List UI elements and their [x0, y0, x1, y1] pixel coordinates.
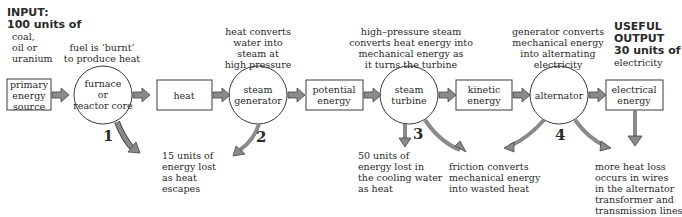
flow-arrow-icon — [589, 88, 606, 102]
flow-arrow-icon — [52, 88, 69, 102]
node-steam-turbine: steamturbine — [391, 84, 426, 106]
flow-arrow-icon — [288, 88, 305, 102]
friction-loss-text: friction convertsmechanical energy into … — [449, 161, 540, 194]
input-line-3: uranium — [12, 53, 53, 64]
input-line-1: coal, — [12, 31, 35, 42]
loss-4-text: more heat lossoccurs in wires in the alt… — [595, 161, 682, 216]
loss-number-2: 2 — [256, 128, 266, 146]
node-alternator: alternator — [535, 90, 584, 101]
loss-number-1: 1 — [103, 127, 113, 145]
flow-arrow-icon — [513, 88, 530, 102]
loss-3-text: 50 units ofenergy lost in the cooling wa… — [358, 150, 442, 194]
alternator-caption: generator convertsmechanical energy into… — [512, 26, 604, 70]
loss-1-text: 15 units ofenergy lost as heatescapes — [162, 150, 216, 194]
steam-turbine-caption: high–pressure steamconverts heat energy … — [349, 26, 473, 70]
node-electrical-energy: electricalenergy — [611, 84, 656, 106]
input-line-2: oil or — [12, 42, 37, 53]
node-furnace: furnaceorreactor core — [73, 78, 132, 111]
node-heat: heat — [173, 90, 194, 101]
output-quantity: 30 units of — [614, 44, 681, 57]
output-line: electricity — [614, 57, 663, 68]
flow-arrow-icon — [133, 88, 150, 102]
node-kinetic-energy: kineticenergy — [467, 84, 500, 106]
flow-arrow-icon — [439, 88, 456, 102]
loss-number-4: 4 — [555, 126, 565, 144]
furnace-caption: fuel is ‘burnt’to produce heat — [64, 42, 140, 64]
loss-number-3: 3 — [413, 125, 423, 143]
input-quantity: 100 units of — [7, 18, 81, 31]
node-potential-energy: potentialenergy — [313, 84, 356, 106]
flow-arrow-icon — [213, 88, 230, 102]
node-steam-generator: steamgenerator — [234, 84, 282, 106]
node-primary-energy-source: primaryenergysource — [10, 79, 48, 112]
steam-generator-caption: heat convertswater into steam athigh pre… — [225, 26, 292, 70]
flow-arrow-icon — [364, 88, 381, 102]
